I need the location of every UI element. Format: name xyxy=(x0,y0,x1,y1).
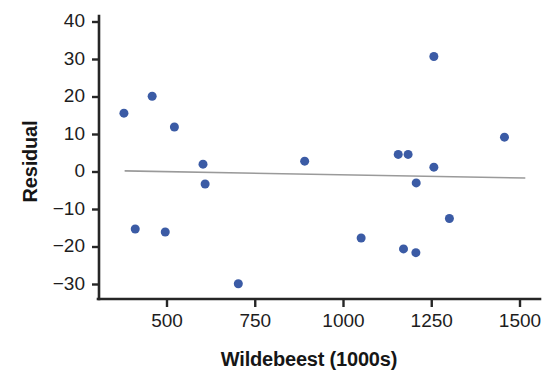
y-tick-label: −30 xyxy=(25,273,85,295)
y-tick-label: 40 xyxy=(25,10,85,32)
data-point xyxy=(399,244,408,253)
axis-lines xyxy=(98,16,540,299)
data-point xyxy=(445,214,454,223)
x-tick-label: 1000 xyxy=(304,310,384,332)
data-point xyxy=(199,160,208,169)
data-point xyxy=(429,163,438,172)
data-point xyxy=(429,52,438,61)
data-point xyxy=(500,133,509,142)
data-point xyxy=(404,150,413,159)
data-point xyxy=(234,279,243,288)
data-point xyxy=(161,228,170,237)
data-point xyxy=(412,178,421,187)
y-axis-title: Residual xyxy=(19,62,42,262)
data-point xyxy=(201,180,210,189)
data-point xyxy=(357,234,366,243)
data-point xyxy=(131,225,140,234)
data-points xyxy=(119,52,509,288)
data-point xyxy=(170,123,179,132)
x-axis-title-text: Wildebeest (1000s) xyxy=(161,348,397,370)
x-tick-label: 1250 xyxy=(392,310,472,332)
x-tick-label: 500 xyxy=(127,310,207,332)
zero-residual-trend-line xyxy=(125,171,526,178)
data-point xyxy=(300,157,309,166)
x-tick-label: 750 xyxy=(215,310,295,332)
scatter-plot-figure: −30−20−10010203040 500750100012501500 Re… xyxy=(0,0,558,391)
data-point xyxy=(394,150,403,159)
data-point xyxy=(411,248,420,257)
x-axis-title: Wildebeest (1000s) xyxy=(0,348,558,371)
data-point xyxy=(119,109,128,118)
data-point xyxy=(148,92,157,101)
x-tick-label: 1500 xyxy=(480,310,558,332)
